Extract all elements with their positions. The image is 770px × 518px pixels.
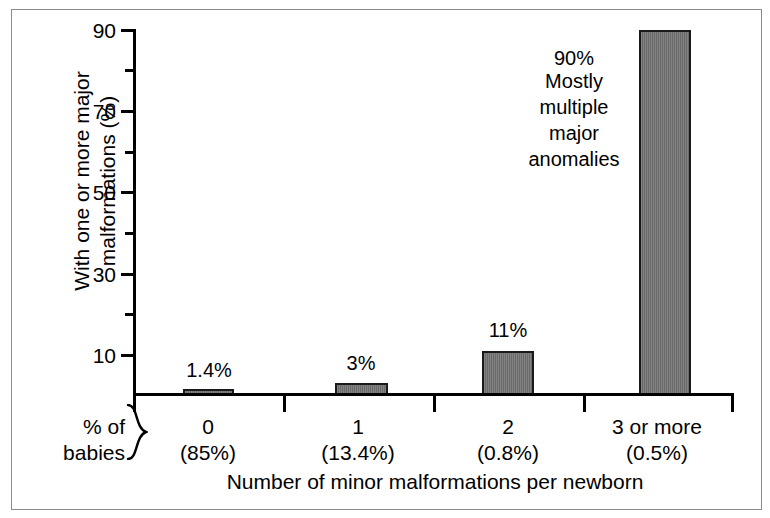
y-tick-80 — [125, 69, 134, 72]
x-tick-end — [731, 396, 734, 412]
y-axis-line — [133, 29, 136, 397]
bar-category-3 — [639, 30, 691, 395]
bar-value-label-0: 1.4% — [168, 360, 250, 380]
bar-value-label-2: 11% — [467, 320, 549, 340]
brace-icon — [126, 404, 148, 460]
y-tick-30 — [121, 273, 134, 276]
x-category-label-0: 0 (85%) — [123, 414, 293, 466]
y-tick-40 — [125, 232, 134, 235]
y-tick-50 — [121, 191, 134, 194]
y-tick-60 — [125, 151, 134, 154]
x-category-name-3: 3 or more — [612, 415, 702, 438]
x-tick-boundary-2 — [433, 396, 436, 412]
y-axis-title: With one or more major malformations (%) — [69, 26, 121, 336]
y-tick-90 — [121, 29, 134, 32]
y-tick-label-10: 10 — [78, 345, 116, 366]
x-category-sublabel-0: (85%) — [123, 440, 293, 466]
x-category-name-1: 1 — [352, 415, 364, 438]
x-category-name-0: 0 — [202, 415, 214, 438]
bar-annotation-3: Mostly multiple major anomalies — [520, 68, 628, 172]
bar-category-2 — [482, 351, 534, 395]
bar-value-label-3: 90% — [533, 48, 615, 68]
y-tick-20 — [125, 313, 134, 316]
y-tick-70 — [121, 110, 134, 113]
x-tick-boundary-3 — [583, 396, 586, 412]
x-axis-title: Number of minor malformations per newbor… — [135, 470, 735, 494]
category-group-label: % of babies — [33, 414, 125, 466]
bar-value-label-1: 3% — [320, 353, 402, 373]
x-category-name-2: 2 — [502, 415, 514, 438]
x-tick-boundary-1 — [283, 396, 286, 412]
y-tick-10 — [121, 354, 134, 357]
x-category-sublabel-2: (0.8%) — [423, 440, 593, 466]
x-category-label-1: 1 (13.4%) — [273, 414, 443, 466]
x-category-label-2: 2 (0.8%) — [423, 414, 593, 466]
x-category-label-3: 3 or more (0.5%) — [572, 414, 742, 466]
chart-figure: 90 70 50 30 10 With one or more major ma… — [0, 0, 770, 518]
x-category-sublabel-3: (0.5%) — [572, 440, 742, 466]
x-category-sublabel-1: (13.4%) — [273, 440, 443, 466]
category-group-label-line2: babies — [63, 441, 125, 464]
category-group-label-line1: % of — [83, 415, 125, 438]
